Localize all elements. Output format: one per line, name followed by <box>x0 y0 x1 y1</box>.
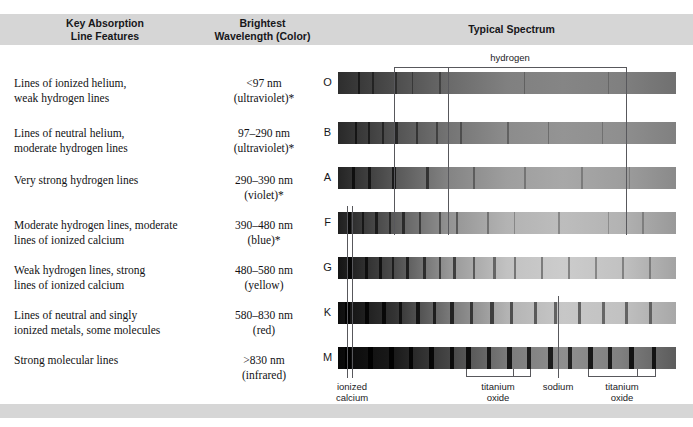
titanium-oxide-left-bracket <box>466 376 530 377</box>
spectrum-strip <box>338 302 676 324</box>
wavelength-text: >830 nm(infrared) <box>205 353 323 382</box>
feature-text: Lines of ionized helium,weak hydrogen li… <box>14 76 209 105</box>
column-header-key-absorption: Key Absorption Line Features <box>10 14 200 45</box>
wavelength-color: (violet)* <box>205 188 323 203</box>
wavelength-text: 580–830 nm(red) <box>205 308 323 337</box>
titanium-oxide-left-tick-1 <box>513 369 514 377</box>
wavelength-color: (infrared) <box>205 368 323 383</box>
wavelength-text: 480–580 nm(yellow) <box>205 263 323 292</box>
spectral-class-letter: G <box>320 261 335 273</box>
feature-line1: Weak hydrogen lines, strong <box>14 263 209 278</box>
label-titanium-oxide-left: titanium oxide <box>462 381 534 403</box>
wavelength-text: 390–480 nm(blue)* <box>205 218 323 247</box>
hydrogen-bracket <box>394 67 626 68</box>
spectral-class-figure: Key Absorption Line Features Brightest W… <box>0 0 693 427</box>
feature-line1: Lines of neutral helium, <box>14 126 209 141</box>
label-sodium: sodium <box>526 381 590 392</box>
wavelength-value: <97 nm <box>205 76 323 91</box>
spectral-class-letter: M <box>320 351 335 363</box>
feature-text: Lines of neutral helium,moderate hydroge… <box>14 126 209 155</box>
column-header-line2: Wavelength (Color) <box>215 30 311 43</box>
titanium-oxide-right-tick-1 <box>637 369 638 377</box>
label-titanium-oxide-right: titanium oxide <box>586 381 658 403</box>
wavelength-color: (ultraviolet)* <box>205 91 323 106</box>
wavelength-value: 290–390 nm <box>205 173 323 188</box>
wavelength-value: 390–480 nm <box>205 218 323 233</box>
feature-text: Very strong hydrogen lines <box>14 173 209 188</box>
spectrum-strip <box>338 347 676 369</box>
wavelength-text: <97 nm(ultraviolet)* <box>205 76 323 105</box>
label-line1: titanium <box>462 381 534 392</box>
absorption-lines <box>338 347 676 369</box>
label-line2: calcium <box>316 392 388 403</box>
titanium-oxide-right-bracket <box>588 376 655 377</box>
label-ionized-calcium: ionized calcium <box>316 381 388 403</box>
feature-line2: weak hydrogen lines <box>14 91 209 106</box>
feature-line2: lines of ionized calcium <box>14 278 209 293</box>
ionized-calcium-line-1 <box>352 206 353 378</box>
hydrogen-tick-1 <box>448 67 449 235</box>
feature-text: Weak hydrogen lines, stronglines of ioni… <box>14 263 209 292</box>
wavelength-value: 480–580 nm <box>205 263 323 278</box>
column-header-typical-spectrum: Typical Spectrum <box>330 14 693 45</box>
feature-line1: Very strong hydrogen lines <box>14 173 209 188</box>
spectral-class-letter: K <box>320 306 335 318</box>
titanium-oxide-right-tick-2 <box>655 369 656 377</box>
wavelength-text: 290–390 nm(violet)* <box>205 173 323 202</box>
column-header-brightest-wavelength: Brightest Wavelength (Color) <box>200 14 325 45</box>
feature-text: Lines of neutral and singlyionized metal… <box>14 308 209 337</box>
feature-text: Strong molecular lines <box>14 353 209 368</box>
feature-line1: Lines of neutral and singly <box>14 308 209 323</box>
titanium-oxide-right-tick-0 <box>588 369 589 377</box>
label-line1: ionized <box>316 381 388 392</box>
sodium-line-0 <box>558 296 559 378</box>
label-line2: oxide <box>462 392 534 403</box>
absorption-lines <box>338 257 676 279</box>
hydrogen-label: hydrogen <box>444 52 576 63</box>
ionized-calcium-line-0 <box>347 206 348 378</box>
column-header-line1: Brightest <box>215 17 311 30</box>
label-line1: sodium <box>526 381 590 392</box>
titanium-oxide-left-tick-2 <box>530 369 531 377</box>
spectral-class-letter: F <box>320 216 335 228</box>
feature-line1: Strong molecular lines <box>14 353 209 368</box>
spectral-class-letter: B <box>320 126 335 138</box>
wavelength-color: (ultraviolet)* <box>205 141 323 156</box>
wavelength-value: 580–830 nm <box>205 308 323 323</box>
feature-text: Moderate hydrogen lines, moderatelines o… <box>14 218 209 247</box>
titanium-oxide-left-tick-0 <box>466 369 467 377</box>
spectral-class-letter: A <box>320 171 335 183</box>
column-header-line1: Key Absorption <box>66 17 144 30</box>
feature-line2: moderate hydrogen lines <box>14 141 209 156</box>
column-header-line1: Typical Spectrum <box>468 23 555 36</box>
footer-band <box>0 404 693 418</box>
absorption-lines <box>338 302 676 324</box>
wavelength-color: (yellow) <box>205 278 323 293</box>
hydrogen-tick-2 <box>626 67 627 235</box>
label-line1: titanium <box>586 381 658 392</box>
wavelength-value: >830 nm <box>205 353 323 368</box>
feature-line2: lines of ionized calcium <box>14 233 209 248</box>
feature-line1: Moderate hydrogen lines, moderate <box>14 218 209 233</box>
spectrum-strip <box>338 257 676 279</box>
hydrogen-tick-0 <box>394 67 395 235</box>
wavelength-value: 97–290 nm <box>205 126 323 141</box>
feature-line2: ionized metals, some molecules <box>14 323 209 338</box>
label-line2: oxide <box>586 392 658 403</box>
wavelength-color: (red) <box>205 323 323 338</box>
wavelength-text: 97–290 nm(ultraviolet)* <box>205 126 323 155</box>
wavelength-color: (blue)* <box>205 233 323 248</box>
feature-line1: Lines of ionized helium, <box>14 76 209 91</box>
spectral-class-letter: O <box>320 76 335 88</box>
column-header-line2: Line Features <box>66 30 144 43</box>
